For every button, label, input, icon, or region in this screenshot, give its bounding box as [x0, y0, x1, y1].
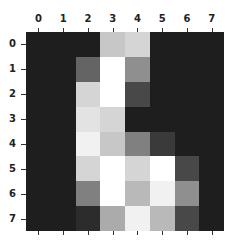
x-tick-mark — [212, 231, 213, 235]
heatmap-cell — [199, 156, 224, 181]
y-tick-label: 2 — [4, 88, 16, 100]
heatmap-cell — [125, 107, 150, 132]
heatmap-cell — [175, 107, 200, 132]
x-tick-label: 1 — [53, 13, 73, 25]
heatmap-cell — [150, 206, 175, 231]
heatmap-cell — [150, 132, 175, 157]
x-tick-mark — [38, 231, 39, 235]
heatmap-cell — [51, 107, 76, 132]
heatmap-cell — [199, 206, 224, 231]
x-tick-mark — [137, 231, 138, 235]
heatmap-cell — [125, 57, 150, 82]
heatmap-cell — [100, 107, 125, 132]
x-tick-mark — [187, 231, 188, 235]
heatmap-cell — [76, 206, 101, 231]
heatmap-cell — [51, 206, 76, 231]
x-tick-mark — [113, 231, 114, 235]
heatmap-cell — [76, 107, 101, 132]
heatmap-cell — [100, 82, 125, 107]
y-tick-label: 4 — [4, 138, 16, 150]
heatmap-cell — [76, 82, 101, 107]
heatmap-cell — [125, 156, 150, 181]
heatmap-cell — [51, 156, 76, 181]
heatmap-cell — [125, 82, 150, 107]
y-tick-label: 0 — [4, 38, 16, 50]
heatmap-cell — [26, 156, 51, 181]
heatmap-cell — [150, 32, 175, 57]
heatmap-cell — [51, 32, 76, 57]
heatmap-cell — [199, 82, 224, 107]
heatmap-cell — [100, 181, 125, 206]
x-tick-label: 6 — [177, 13, 197, 25]
heatmap-cell — [175, 206, 200, 231]
x-tick-mark — [162, 231, 163, 235]
heatmap-cell — [150, 107, 175, 132]
figure: 01234567 01234567 — [0, 0, 236, 244]
y-tick-label: 7 — [4, 213, 16, 225]
heatmap-cell — [175, 57, 200, 82]
heatmap-cell — [26, 32, 51, 57]
heatmap-cell — [26, 107, 51, 132]
heatmap-cell — [100, 57, 125, 82]
heatmap-cell — [199, 132, 224, 157]
heatmap-cell — [51, 181, 76, 206]
x-tick-label: 7 — [202, 13, 222, 25]
heatmap-cell — [175, 32, 200, 57]
heatmap-cell — [199, 181, 224, 206]
heatmap-cell — [76, 181, 101, 206]
heatmap-cell — [76, 32, 101, 57]
heatmap-cell — [175, 82, 200, 107]
heatmap-cell — [76, 57, 101, 82]
y-tick-label: 6 — [4, 188, 16, 200]
heatmap-cell — [76, 132, 101, 157]
heatmap-cell — [51, 57, 76, 82]
heatmap-cell — [26, 206, 51, 231]
heatmap-cell — [175, 181, 200, 206]
heatmap-cell — [199, 57, 224, 82]
heatmap-cell — [51, 82, 76, 107]
x-tick-label: 4 — [127, 13, 147, 25]
heatmap-cell — [150, 57, 175, 82]
heatmap-cell — [26, 132, 51, 157]
heatmap-cell — [175, 132, 200, 157]
y-tick-label: 1 — [4, 63, 16, 75]
heatmap-cell — [26, 82, 51, 107]
heatmap-grid — [26, 32, 224, 231]
heatmap-cell — [26, 57, 51, 82]
y-tick-label: 5 — [4, 163, 16, 175]
heatmap-cell — [125, 132, 150, 157]
x-tick-label: 2 — [78, 13, 98, 25]
heatmap-cell — [76, 156, 101, 181]
heatmap-cell — [125, 206, 150, 231]
x-tick-mark — [88, 231, 89, 235]
y-tick-label: 3 — [4, 113, 16, 125]
heatmap-cell — [175, 156, 200, 181]
heatmap-cell — [125, 181, 150, 206]
heatmap-cell — [199, 107, 224, 132]
x-tick-label: 5 — [152, 13, 172, 25]
heatmap-cell — [100, 132, 125, 157]
heatmap-cell — [51, 132, 76, 157]
heatmap-cell — [150, 82, 175, 107]
heatmap-cell — [100, 206, 125, 231]
heatmap-cell — [150, 181, 175, 206]
heatmap-cell — [100, 32, 125, 57]
x-tick-mark — [63, 231, 64, 235]
heatmap-cell — [125, 32, 150, 57]
heatmap-cell — [199, 32, 224, 57]
x-tick-label: 0 — [28, 13, 48, 25]
heatmap-cell — [100, 156, 125, 181]
x-tick-label: 3 — [103, 13, 123, 25]
heatmap-cell — [150, 156, 175, 181]
heatmap-cell — [26, 181, 51, 206]
